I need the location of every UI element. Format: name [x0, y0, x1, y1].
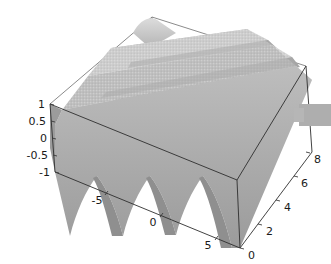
z-axis-tick-labels: 1 0.5 0 -0.5 -1 [27, 98, 50, 179]
surface-plot-figure: 1 0.5 0 -0.5 -1 -5 0 5 0 2 4 6 8 [0, 0, 331, 264]
render-artifact-block [294, 104, 331, 126]
x-tick-label-5: 5 [205, 239, 212, 252]
z-tick-label-neg0p5: -0.5 [27, 149, 48, 162]
y-tick-label-6: 6 [301, 177, 308, 190]
plot-canvas: 1 0.5 0 -0.5 -1 -5 0 5 0 2 4 6 8 [0, 0, 331, 264]
z-tick-label-0: 0 [40, 132, 47, 145]
y-tick-label-0: 0 [248, 249, 255, 262]
z-tick-label-neg1: -1 [39, 166, 50, 179]
y-tick-label-4: 4 [284, 201, 291, 214]
z-tick-label-1: 1 [38, 98, 45, 111]
surface-mesh [50, 18, 312, 248]
y-tick-label-8: 8 [314, 153, 321, 166]
z-tick-label-0p5: 0.5 [29, 115, 47, 128]
x-tick-label-0: 0 [150, 216, 157, 229]
y-tick-label-2: 2 [266, 225, 273, 238]
x-tick-label-neg5: -5 [92, 194, 103, 207]
